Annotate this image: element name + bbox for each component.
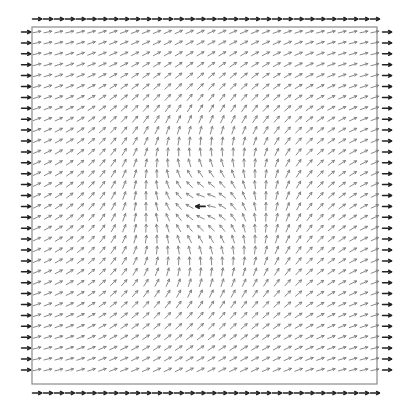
field-arrow-icon <box>100 203 105 210</box>
field-arrow-icon <box>350 204 357 208</box>
field-arrow-icon <box>199 290 203 297</box>
field-arrow-icon <box>328 292 335 296</box>
field-arrow-icon <box>133 148 137 155</box>
field-arrow-icon <box>99 313 106 317</box>
field-arrow-icon <box>252 324 258 329</box>
field-arrow-icon <box>263 116 268 122</box>
field-arrow-icon <box>78 237 84 242</box>
center-arrow-icon <box>196 205 205 208</box>
field-arrow-icon <box>132 73 139 77</box>
field-arrow-icon <box>284 30 292 33</box>
field-arrow-icon <box>66 346 74 349</box>
field-arrow-icon <box>360 325 368 328</box>
field-arrow-icon <box>242 105 247 111</box>
field-arrow-icon <box>219 41 226 45</box>
field-arrow-icon <box>219 52 226 56</box>
boundary-arrow-icon <box>185 17 194 20</box>
field-arrow-icon <box>99 30 107 33</box>
field-arrow-icon <box>131 30 139 33</box>
field-arrow-icon <box>197 30 204 33</box>
field-arrow-icon <box>251 52 258 56</box>
field-arrow-icon <box>219 193 225 198</box>
field-arrow-icon <box>242 224 245 232</box>
field-arrow-icon <box>328 128 335 132</box>
field-arrow-icon <box>167 148 169 156</box>
field-arrow-icon <box>188 236 192 243</box>
field-arrow-icon <box>164 368 171 372</box>
boundary-arrow-icon <box>338 391 347 394</box>
field-arrow-icon <box>177 170 180 177</box>
field-arrow-icon <box>241 41 248 45</box>
field-arrow-icon <box>44 215 51 219</box>
boundary-arrows <box>22 17 392 394</box>
field-arrow-icon <box>99 127 105 132</box>
field-arrow-icon <box>210 279 213 287</box>
field-arrow-icon <box>197 335 203 340</box>
field-arrow-icon <box>55 204 62 208</box>
field-arrow-icon <box>285 127 290 133</box>
field-arrow-icon <box>360 85 368 88</box>
field-arrow-icon <box>349 303 356 306</box>
field-arrow-icon <box>89 247 95 253</box>
field-arrow-icon <box>77 41 85 44</box>
field-arrow-icon <box>142 41 149 44</box>
field-arrow-icon <box>349 96 356 99</box>
field-arrow-icon <box>327 368 335 371</box>
field-arrow-icon <box>274 95 280 100</box>
field-arrow-icon <box>209 312 214 318</box>
field-arrow-icon <box>186 368 193 372</box>
field-arrow-icon <box>167 268 170 276</box>
field-arrow-icon <box>44 74 52 77</box>
field-arrow-icon <box>144 268 148 275</box>
field-arrow-icon <box>121 324 128 328</box>
boundary-arrow-icon <box>305 17 314 20</box>
boundary-arrow-icon <box>283 17 292 20</box>
field-arrow-icon <box>296 138 301 144</box>
field-arrow-icon <box>145 148 148 156</box>
field-arrow-icon <box>230 52 237 56</box>
field-arrow-icon <box>167 257 169 265</box>
boundary-arrow-icon <box>383 30 392 33</box>
boundary-arrow-icon <box>65 391 74 394</box>
field-arrow-icon <box>78 204 84 209</box>
field-arrow-icon <box>317 106 324 110</box>
field-arrow-icon <box>145 213 148 221</box>
field-arrow-icon <box>221 268 223 276</box>
field-arrow-icon <box>231 181 235 188</box>
field-arrow-icon <box>197 62 204 67</box>
boundary-arrow-icon <box>383 150 392 153</box>
field-arrow-icon <box>44 161 51 165</box>
field-arrow-icon <box>339 139 346 143</box>
field-arrow-icon <box>188 290 192 297</box>
field-arrow-icon <box>55 368 63 371</box>
field-arrow-icon <box>33 128 40 131</box>
field-arrow-icon <box>360 292 367 295</box>
field-arrow-icon <box>77 259 83 264</box>
boundary-arrow-icon <box>22 238 31 241</box>
field-arrow-icon <box>360 314 368 317</box>
field-arrow-icon <box>77 74 84 77</box>
field-arrow-icon <box>33 368 41 370</box>
field-arrow-icon <box>77 63 85 66</box>
field-arrow-icon <box>55 346 63 349</box>
field-arrow-icon <box>273 357 280 361</box>
field-arrow-icon <box>55 85 63 88</box>
field-arrow-icon <box>66 335 74 338</box>
field-arrow-icon <box>122 258 126 265</box>
field-arrow-icon <box>133 268 137 275</box>
field-arrow-icon <box>33 85 41 88</box>
field-arrow-icon <box>251 41 258 45</box>
boundary-arrow-icon <box>109 391 118 394</box>
field-arrow-icon <box>242 290 246 297</box>
field-arrow-icon <box>339 259 346 263</box>
field-arrow-icon <box>121 346 128 350</box>
boundary-arrow-icon <box>22 248 31 251</box>
field-arrow-icon <box>263 324 269 329</box>
field-arrow-icon <box>263 105 268 111</box>
field-arrow-icon <box>284 335 291 339</box>
field-arrow-icon <box>285 302 291 307</box>
field-arrow-icon <box>317 302 324 306</box>
field-arrow-icon <box>209 225 215 231</box>
boundary-arrow-icon <box>383 205 392 208</box>
field-arrow-icon <box>111 181 115 188</box>
